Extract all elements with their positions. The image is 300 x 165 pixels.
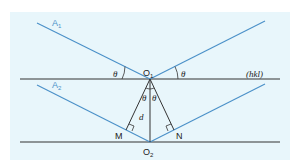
- label-o1: O1: [143, 68, 154, 79]
- ray-a1-incident: [37, 23, 150, 79]
- theta-arc-o1-left-icon: [146, 88, 150, 89]
- theta-arc-left-icon: [122, 67, 125, 80]
- ray-a2-reflected: [150, 84, 265, 142]
- label-d: d: [139, 112, 144, 122]
- label-o2: O2: [143, 147, 154, 158]
- label-a1: A1: [52, 18, 62, 29]
- label-theta-o1-left: θ: [142, 93, 147, 103]
- perpendicular-to-n: [150, 79, 174, 130]
- right-angle-m-icon: [129, 124, 134, 131]
- label-theta-left: θ: [113, 69, 118, 79]
- label-theta-o1-right: θ: [152, 93, 157, 103]
- label-plane-hkl: (hkl): [246, 69, 263, 79]
- label-a2: A2: [52, 80, 62, 91]
- bragg-diagram: A1 A2 O1 O2 M N d θ θ θ θ (hkl): [0, 0, 300, 165]
- theta-arc-right-icon: [175, 67, 178, 80]
- perpendicular-to-m: [126, 79, 150, 130]
- label-theta-right: θ: [181, 69, 186, 79]
- right-angle-n-icon: [166, 124, 171, 131]
- theta-arc-o1-right-icon: [150, 88, 154, 89]
- label-m: M: [115, 131, 123, 141]
- label-n: N: [176, 131, 183, 141]
- ray-a2-incident: [37, 85, 150, 142]
